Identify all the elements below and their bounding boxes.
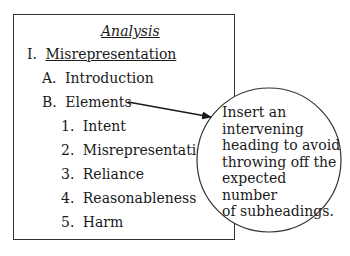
callout-line: intervening xyxy=(222,121,342,138)
callout-text: Insert an intervening heading to avoid t… xyxy=(222,104,342,220)
arrow-icon xyxy=(128,102,211,117)
callout-line: throwing off the xyxy=(222,154,342,171)
callout-line: expected number xyxy=(222,170,342,203)
callout-line: of subheadings. xyxy=(222,203,342,220)
callout-line: heading to avoid xyxy=(222,137,342,154)
callout-line: Insert an xyxy=(222,104,342,121)
